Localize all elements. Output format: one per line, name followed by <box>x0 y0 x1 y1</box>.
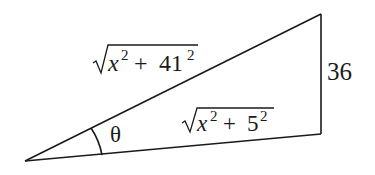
edge-top-hypotenuse <box>25 14 321 161</box>
label-bottom-var: x <box>196 111 208 136</box>
label-angle-theta: θ <box>110 122 121 147</box>
label-hypotenuse: x 2 + 41 2 <box>93 45 198 76</box>
triangle-diagram: x 2 + 41 2 x 2 + 5 2 36 θ <box>0 0 375 175</box>
label-top-plus: + <box>134 50 148 76</box>
label-bottom-num: 5 <box>247 111 259 136</box>
label-bottom-exp2: 2 <box>260 108 268 124</box>
label-top-var: x <box>107 50 119 76</box>
label-bottom-side: x 2 + 5 2 <box>182 108 274 136</box>
label-bottom-plus: + <box>223 111 236 136</box>
label-top-exp2: 2 <box>187 47 195 63</box>
label-top-exp1: 2 <box>121 47 129 63</box>
triangle-svg: x 2 + 41 2 x 2 + 5 2 36 θ <box>0 0 375 175</box>
edge-bottom-side <box>25 134 321 161</box>
label-right-side: 36 <box>327 58 352 85</box>
label-top-num: 41 <box>159 50 183 76</box>
angle-arc <box>91 128 102 155</box>
label-bottom-exp1: 2 <box>210 108 218 124</box>
